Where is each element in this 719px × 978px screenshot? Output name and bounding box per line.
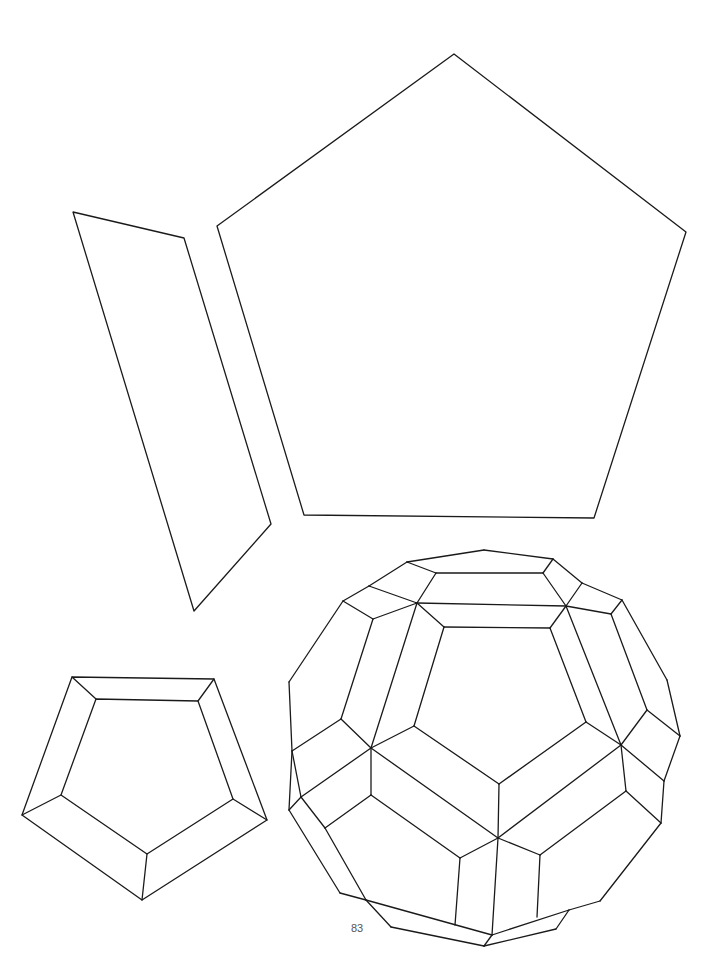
polyhedron-edge xyxy=(460,838,498,858)
polyhedron-edge xyxy=(540,791,626,855)
page-number: 83 xyxy=(351,922,363,934)
framed-pentagon-inner xyxy=(61,699,233,854)
polyhedron-drawing xyxy=(289,550,680,946)
polyhedron-edge xyxy=(371,748,498,838)
polyhedron-edge xyxy=(417,603,444,627)
framed-pentagon-piece xyxy=(22,677,267,900)
polyhedron-edge xyxy=(369,586,417,603)
polyhedron-edge xyxy=(498,745,621,838)
polyhedron-edge xyxy=(550,606,566,628)
polyhedron-edge xyxy=(543,559,553,573)
polyhedron-edge xyxy=(455,858,460,925)
polyhedron-edge xyxy=(341,719,371,748)
polyhedron-edge xyxy=(292,719,341,751)
polyhedron-edge xyxy=(301,797,325,828)
polyhedron-edge xyxy=(301,748,371,797)
framed-pentagon-outer xyxy=(22,677,267,900)
polyhedron-edge xyxy=(556,910,569,929)
polyhedron-edge xyxy=(492,838,498,935)
polyhedron-edge xyxy=(407,562,436,573)
polyhedron-edge xyxy=(343,601,373,619)
polyhedron-edge xyxy=(498,784,499,838)
polyhedron-edge xyxy=(566,606,621,745)
polyhedron-edge xyxy=(492,910,569,935)
polyhedron-edge xyxy=(371,603,417,748)
polyhedron-edge xyxy=(325,828,366,900)
polyhedron-edge xyxy=(611,600,622,614)
polyhedron-edge xyxy=(569,901,600,910)
polyhedron-edge xyxy=(498,838,540,855)
polyhedron-edge xyxy=(444,627,550,628)
polyhedron-edge xyxy=(586,722,621,745)
polyhedron-edge xyxy=(582,583,622,600)
polyhedron-edge xyxy=(407,550,484,562)
polyhedron-edge xyxy=(621,745,664,781)
polyhedron-edge xyxy=(664,736,680,781)
polyhedron-edge xyxy=(292,751,301,797)
large-pentagon-piece xyxy=(217,54,686,518)
polyhedron-edge xyxy=(484,929,556,946)
polyhedron-edge xyxy=(417,603,566,606)
polyhedron-edge xyxy=(600,823,661,901)
polyhedron-edge xyxy=(341,619,373,719)
polyhedron-edge xyxy=(414,627,444,726)
polyhedron-edge xyxy=(366,900,492,935)
polyhedron-edge xyxy=(325,795,371,828)
polyhedron-edge xyxy=(499,722,586,784)
polyhedron-edge xyxy=(661,781,664,823)
polyhedron-edge xyxy=(289,601,343,682)
polyhedron-edge xyxy=(621,745,626,791)
polyhedron-edge xyxy=(417,573,436,603)
polyhedron-edge xyxy=(611,614,647,710)
polyhedron-edge xyxy=(543,573,566,606)
polyhedron-edge xyxy=(566,583,582,606)
polyhedron-edge xyxy=(484,550,553,559)
polyhedron-edge xyxy=(391,927,484,946)
polyhedron-edge xyxy=(343,586,369,601)
polyhedron-edge xyxy=(371,795,460,858)
polyhedron-edge xyxy=(369,562,407,586)
polyhedron-edge xyxy=(626,791,661,823)
polyhedron-edge xyxy=(553,559,582,583)
polyhedron-edge xyxy=(373,603,417,619)
polyhedron-edge xyxy=(537,855,540,917)
framed-pentagon-bevel-edges xyxy=(22,677,267,900)
polyhedron-edge xyxy=(566,606,611,614)
diagram-canvas xyxy=(0,0,719,978)
polyhedron-edge xyxy=(621,710,647,745)
polyhedron-edge xyxy=(414,726,499,784)
polyhedron-edge xyxy=(289,751,292,810)
polyhedron-edge xyxy=(289,797,301,810)
polyhedron-edge xyxy=(622,600,667,680)
polyhedron-edge xyxy=(289,682,292,751)
parallelogram-piece xyxy=(73,212,271,611)
